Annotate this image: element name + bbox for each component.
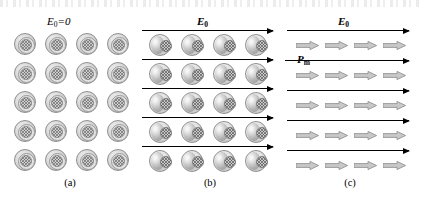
panel-c-field-label: E0 — [338, 16, 349, 27]
atom-nucleus-core — [82, 39, 94, 51]
atom-unpolarized — [45, 120, 67, 142]
atom-unpolarized — [14, 91, 36, 113]
dipole-subscript-m: m — [304, 58, 310, 67]
atom-polarized — [213, 121, 235, 143]
field-line-arrow — [287, 150, 409, 151]
panel-c: E0 Pm (c) — [285, 0, 421, 200]
field-line-arrow — [142, 59, 273, 60]
dipole-moment-arrow — [296, 71, 319, 80]
atom-displaced-core — [224, 156, 236, 168]
pm-leader-line — [285, 60, 294, 61]
atom-polarized — [149, 92, 171, 114]
atom-nucleus-core — [82, 155, 94, 167]
field-line-arrow — [287, 120, 409, 121]
atom-displaced-core — [192, 127, 204, 139]
field-equals-zero: =0 — [57, 15, 70, 27]
atom-nucleus-core — [113, 126, 125, 138]
panel-a-field-label: E0=0 — [47, 16, 70, 27]
dipole-moment-arrow — [325, 101, 348, 110]
atom-unpolarized — [76, 91, 98, 113]
atom-polarized — [245, 150, 267, 172]
dipole-moment-arrow — [296, 101, 319, 110]
atom-displaced-core — [224, 69, 236, 81]
dipole-moment-arrow — [325, 131, 348, 140]
atom-polarized — [149, 34, 171, 56]
atom-displaced-core — [160, 156, 172, 168]
atom-displaced-core — [224, 127, 236, 139]
atom-unpolarized — [14, 149, 36, 171]
panel-a: E0=0 (a) — [0, 0, 140, 200]
dipole-moment-arrow — [383, 71, 406, 80]
atom-polarized — [213, 150, 235, 172]
atom-unpolarized — [14, 120, 36, 142]
atom-nucleus-core — [113, 39, 125, 51]
atom-displaced-core — [160, 127, 172, 139]
atom-unpolarized — [107, 33, 129, 55]
atom-displaced-core — [256, 69, 268, 81]
atom-polarized — [245, 92, 267, 114]
caption-c: (c) — [285, 178, 415, 189]
dipole-moment-arrow — [383, 101, 406, 110]
atom-polarized — [149, 150, 171, 172]
dipole-moment-arrow — [296, 41, 319, 50]
dipole-moment-arrow — [383, 41, 406, 50]
atom-polarized — [213, 92, 235, 114]
atom-displaced-core — [160, 69, 172, 81]
atom-nucleus-core — [51, 97, 63, 109]
atom-unpolarized — [107, 120, 129, 142]
atom-nucleus-core — [82, 126, 94, 138]
atom-displaced-core — [256, 127, 268, 139]
atom-displaced-core — [192, 69, 204, 81]
atom-polarized — [181, 92, 203, 114]
atom-nucleus-core — [113, 97, 125, 109]
atom-polarized — [181, 34, 203, 56]
atom-unpolarized — [107, 62, 129, 84]
dipole-moment-arrow — [325, 161, 348, 170]
atom-unpolarized — [14, 62, 36, 84]
atom-nucleus-core — [20, 126, 32, 138]
field-line-arrow — [287, 30, 409, 31]
dipole-symbol-p: P — [297, 53, 304, 65]
dipole-moment-arrow — [383, 131, 406, 140]
atom-polarized — [149, 121, 171, 143]
atom-polarized — [245, 63, 267, 85]
dipole-moment-label: Pm — [297, 54, 310, 65]
atom-nucleus-core — [20, 39, 32, 51]
dipole-moment-arrow — [296, 161, 319, 170]
atom-unpolarized — [45, 62, 67, 84]
atom-polarized — [213, 63, 235, 85]
atom-displaced-core — [256, 156, 268, 168]
atom-nucleus-core — [51, 126, 63, 138]
caption-b: (b) — [140, 178, 280, 189]
dipole-moment-arrow — [296, 131, 319, 140]
atom-polarized — [149, 63, 171, 85]
field-subscript-zero: 0 — [345, 20, 349, 29]
field-line-arrow — [142, 117, 273, 118]
atom-displaced-core — [192, 156, 204, 168]
caption-a: (a) — [0, 178, 140, 189]
field-line-arrow — [287, 90, 409, 91]
atom-nucleus-core — [20, 68, 32, 80]
atom-displaced-core — [160, 40, 172, 52]
field-line-arrow — [142, 146, 273, 147]
field-subscript-zero: 0 — [204, 20, 208, 29]
atom-unpolarized — [45, 33, 67, 55]
field-line-arrow — [142, 30, 273, 31]
atom-unpolarized — [76, 149, 98, 171]
atom-polarized — [181, 150, 203, 172]
atom-displaced-core — [256, 98, 268, 110]
atom-nucleus-core — [51, 68, 63, 80]
atom-displaced-core — [224, 98, 236, 110]
atom-polarized — [181, 63, 203, 85]
dielectric-polarization-figure: E0=0 (a) E0 (b) E0 Pm (c) — [0, 0, 421, 200]
atom-nucleus-core — [51, 39, 63, 51]
atom-displaced-core — [192, 40, 204, 52]
atom-unpolarized — [76, 62, 98, 84]
field-symbol-e: E — [47, 15, 54, 27]
field-line-arrow — [142, 88, 273, 89]
atom-nucleus-core — [82, 97, 94, 109]
dipole-moment-arrow — [354, 131, 377, 140]
atom-displaced-core — [192, 98, 204, 110]
atom-unpolarized — [45, 91, 67, 113]
atom-unpolarized — [45, 149, 67, 171]
